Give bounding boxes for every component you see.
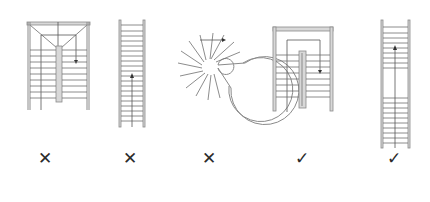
stair-3-verdict-cross-icon: ✕ <box>199 148 219 168</box>
stair-4-verdict-check-icon: ✓ <box>292 148 312 168</box>
stair-1-verdict-cross-icon: ✕ <box>35 148 55 168</box>
staircase-figure: ✕ ✕ ✕ ✓ ✓ <box>0 0 430 202</box>
stair-4-drawing <box>273 27 333 112</box>
stair-5-drawing <box>381 20 410 148</box>
stair-1-drawing <box>27 22 90 110</box>
staircase-drawings <box>0 0 430 202</box>
stair-2-drawing <box>119 20 145 127</box>
stair-5-verdict-check-icon: ✓ <box>384 148 404 168</box>
stair-2-verdict-cross-icon: ✕ <box>120 148 140 168</box>
